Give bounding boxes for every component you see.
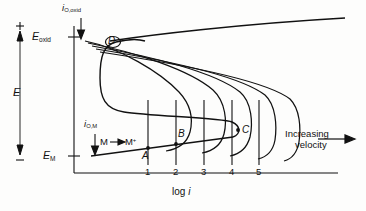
dot-b bbox=[174, 142, 178, 146]
x-axis-label-prefix: log bbox=[172, 186, 188, 197]
i0-m-label: iO,M bbox=[84, 118, 97, 129]
velocity-note-line2: velocity bbox=[295, 139, 327, 150]
e-m-symbol: E bbox=[43, 149, 50, 161]
e-axis-up-arrowhead bbox=[17, 31, 23, 41]
e-m-subscript: M bbox=[50, 155, 55, 162]
point-label-b: B bbox=[178, 128, 185, 139]
x-axis-label: log i bbox=[172, 186, 190, 197]
y-axis-label-e-m: EM bbox=[43, 149, 55, 162]
i0-oxid-arrowhead bbox=[78, 30, 85, 39]
i0-m-subscript: O,M bbox=[86, 123, 97, 129]
e-oxid-subscript: oxid bbox=[39, 36, 51, 43]
i0-oxid-subscript: O,oxid bbox=[64, 7, 81, 13]
velocity-arrowhead bbox=[345, 135, 355, 143]
point-label-d: D bbox=[108, 35, 115, 46]
transpassive-branch bbox=[110, 18, 345, 41]
diagram-canvas bbox=[0, 0, 366, 211]
x-tick-label-5: 5 bbox=[256, 166, 261, 177]
x-tick-label-2: 2 bbox=[173, 166, 178, 177]
i0-m-arrowhead bbox=[92, 146, 99, 155]
reaction-charge: + bbox=[133, 137, 136, 143]
e-oxid-symbol: E bbox=[32, 30, 39, 42]
y-axis-label-e-oxid: Eoxid bbox=[32, 30, 51, 43]
x-tick-label-1: 1 bbox=[145, 166, 150, 177]
polarization-diagram-figure: E Eoxid EM iO,oxid iO,M MM+ D A B C 1 2 … bbox=[0, 0, 366, 211]
x-axis-label-symbol: i bbox=[188, 186, 190, 197]
reaction-species: M bbox=[100, 136, 108, 147]
y-axis-label-e: E bbox=[13, 86, 20, 98]
e-axis-down-arrowhead bbox=[17, 145, 23, 155]
passivation-nose-and-passive-branch bbox=[100, 40, 239, 137]
velocity-note-line1: Increasing bbox=[285, 128, 329, 139]
i0-oxid-label: iO,oxid bbox=[62, 2, 81, 13]
point-label-a: A bbox=[142, 150, 149, 161]
point-label-c: C bbox=[242, 124, 249, 135]
anodic-reaction-label: MM+ bbox=[100, 136, 136, 147]
x-tick-label-3: 3 bbox=[201, 166, 206, 177]
reaction-product: M bbox=[125, 136, 133, 147]
x-tick-label-4: 4 bbox=[229, 166, 234, 177]
dot-c bbox=[236, 128, 240, 132]
